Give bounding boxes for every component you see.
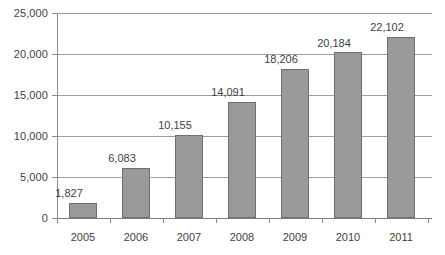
x-axis-label-2006: 2006 [106,231,166,243]
bar-2010 [334,52,362,218]
bar-value-2006: 6,083 [92,153,152,164]
x-axis-label-2010: 2010 [318,231,378,243]
bar-2008 [228,102,256,218]
x-axis-tick-0 [57,218,58,223]
bar-value-2011: 22,102 [357,22,417,33]
y-axis-label-25000: 25,000 [2,8,48,19]
x-axis-tick-1 [110,218,111,223]
y-axis-label-10000: 10,000 [2,131,48,142]
x-axis-label-2011: 2011 [371,231,431,243]
plot-area [57,13,432,218]
bar-2009 [281,69,309,218]
x-axis-label-2007: 2007 [159,231,219,243]
y-axis-labels: 25,000 20,000 15,000 10,000 5,000 0 [0,0,48,255]
y-axis-label-15000: 15,000 [2,90,48,101]
x-axis-tick-7 [428,218,429,223]
y-axis-label-0: 0 [2,213,48,224]
bar-value-2009: 18,206 [251,54,311,65]
bar-2007 [175,135,203,218]
bar-value-2010: 20,184 [304,38,364,49]
x-axis-tick-5 [322,218,323,223]
bar-chart: 25,000 20,000 15,000 10,000 5,000 0 1,82… [0,0,445,255]
gridline-20000 [57,54,432,55]
bar-value-2005: 1,827 [39,188,99,199]
x-axis-label-2008: 2008 [212,231,272,243]
bar-value-2008: 14,091 [198,87,258,98]
x-axis-tick-2 [163,218,164,223]
x-axis-label-2009: 2009 [265,231,325,243]
bar-2006 [122,168,150,218]
y-axis-label-20000: 20,000 [2,49,48,60]
bar-2011 [387,37,415,218]
bar-2005 [69,203,97,218]
y-axis-label-5000: 5,000 [2,172,48,183]
bar-value-2007: 10,155 [145,120,205,131]
gridline-25000 [57,13,432,14]
x-axis-tick-3 [216,218,217,223]
x-axis-tick-6 [375,218,376,223]
x-axis-tick-4 [269,218,270,223]
x-axis-label-2005: 2005 [53,231,113,243]
